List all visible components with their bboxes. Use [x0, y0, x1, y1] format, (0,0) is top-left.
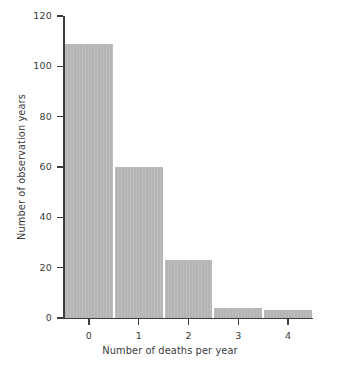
- y-axis-tick-label: 40: [40, 211, 53, 222]
- y-axis-tick-label: 100: [33, 60, 52, 71]
- x-axis-tick-label: 3: [228, 330, 248, 341]
- y-axis-tick-label: 0: [46, 312, 52, 323]
- y-axis-tick-label: 60: [40, 161, 53, 172]
- x-axis-tick-mark: [138, 319, 140, 325]
- y-axis-tick-mark: [57, 15, 63, 17]
- x-axis-tick-label: 0: [79, 330, 99, 341]
- y-axis-title: Number of observation years: [14, 16, 30, 318]
- bar-category-2: [165, 260, 213, 318]
- x-axis-tick-label: 1: [129, 330, 149, 341]
- x-axis-title: Number of deaths per year: [0, 345, 340, 356]
- bar-category-3: [214, 308, 262, 318]
- x-axis-tick-mark: [188, 319, 190, 325]
- plot-area: [64, 16, 313, 318]
- bar-category-1: [115, 167, 163, 318]
- y-axis-tick-label: 120: [33, 10, 52, 21]
- y-axis-tick-mark: [57, 317, 63, 319]
- y-axis-tick-mark: [57, 267, 63, 269]
- x-axis-tick-mark: [88, 319, 90, 325]
- histogram-figure: 0 20 40 60 80 100 120 0 1 2 3 4 Number o…: [0, 0, 340, 371]
- x-axis-tick-mark: [287, 319, 289, 325]
- y-axis-tick-label: 20: [40, 262, 53, 273]
- bar-category-0: [64, 44, 113, 318]
- x-axis-tick-label: 2: [179, 330, 199, 341]
- x-axis-tick-mark: [238, 319, 240, 325]
- y-axis-tick-label: 80: [40, 111, 53, 122]
- y-axis-tick-mark: [57, 166, 63, 168]
- y-axis-tick-mark: [57, 116, 63, 118]
- y-axis-tick-mark: [57, 217, 63, 219]
- y-axis-spine: [63, 16, 65, 319]
- y-axis-tick-mark: [57, 66, 63, 68]
- x-axis-tick-label: 4: [278, 330, 298, 341]
